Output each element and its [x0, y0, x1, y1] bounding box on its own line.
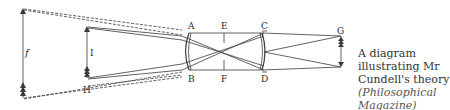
- label-h: H: [83, 85, 91, 95]
- caption-source: (Philosophical Magazine): [358, 86, 450, 110]
- caption-text: A diagram illustrating Mr Cundell's theo…: [358, 47, 450, 86]
- label-i: I: [90, 48, 94, 58]
- label-e: E: [221, 21, 228, 31]
- figure-caption: A diagram illustrating Mr Cundell's theo…: [358, 47, 450, 110]
- label-g: G: [337, 26, 344, 36]
- label-b: B: [188, 74, 195, 84]
- label-f: f: [24, 47, 31, 58]
- optics-figure: A E C G B F D I H f A diagram illustrati…: [0, 0, 450, 110]
- label-d: D: [261, 74, 268, 84]
- label-f-upper: F: [221, 74, 227, 84]
- label-c: C: [261, 21, 268, 31]
- label-a: A: [187, 21, 195, 31]
